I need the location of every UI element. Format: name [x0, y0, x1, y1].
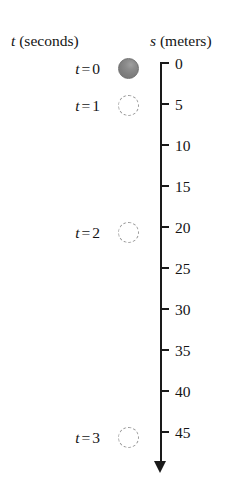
axis-tick-label-10: 10 [175, 138, 191, 154]
time-symbol: t [75, 60, 79, 77]
axis-tick-0 [160, 62, 169, 64]
axis-tick-label-20: 20 [175, 220, 191, 236]
axis-tick-45 [160, 431, 169, 433]
axis-tick-label-30: 30 [175, 302, 191, 318]
axis-tick-label-15: 15 [175, 179, 191, 195]
axis-tick-5 [160, 103, 169, 105]
axis-tick-label-5: 5 [175, 97, 183, 113]
axis-line [160, 63, 162, 461]
equals-sign: = [80, 429, 93, 446]
ball-outline-t1 [118, 95, 139, 116]
time-label-t3: t=3 [26, 430, 100, 446]
axis-tick-10 [160, 144, 169, 146]
free-fall-diagram: t (seconds) s (meters) t=0t=1t=2t=3 0510… [0, 0, 250, 495]
equals-sign: = [80, 224, 93, 241]
axis-tick-40 [160, 390, 169, 392]
axis-tick-15 [160, 185, 169, 187]
axis-tick-label-40: 40 [175, 384, 191, 400]
time-value: 1 [92, 97, 100, 114]
time-symbol: t [75, 224, 79, 241]
equals-sign: = [80, 97, 93, 114]
axis-tick-20 [160, 226, 169, 228]
axis-tick-label-0: 0 [175, 56, 183, 72]
axis-tick-25 [160, 267, 169, 269]
time-label-t2: t=2 [26, 225, 100, 241]
time-symbol: t [75, 97, 79, 114]
axis-tick-label-45: 45 [175, 425, 191, 441]
ball-solid-t0 [118, 58, 139, 79]
axis-down-arrow-icon [154, 461, 166, 473]
time-value: 0 [92, 60, 100, 77]
time-value: 2 [92, 224, 100, 241]
ball-outline-t2 [118, 222, 139, 243]
time-column-header: t (seconds) [11, 33, 79, 49]
ball-outline-t3 [118, 427, 139, 448]
time-label-t1: t=1 [26, 98, 100, 114]
time-symbol: t [75, 429, 79, 446]
axis-tick-label-35: 35 [175, 343, 191, 359]
axis-tick-35 [160, 349, 169, 351]
time-value: 3 [92, 429, 100, 446]
axis-tick-30 [160, 308, 169, 310]
axis-tick-label-25: 25 [175, 261, 191, 277]
distance-column-header: s (meters) [150, 33, 212, 49]
equals-sign: = [80, 60, 93, 77]
time-unit-label: (seconds) [19, 32, 78, 49]
time-label-t0: t=0 [26, 61, 100, 77]
distance-unit-label: (meters) [160, 32, 212, 49]
